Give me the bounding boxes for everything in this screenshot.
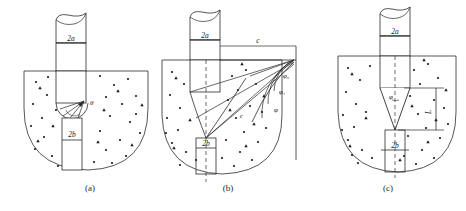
panel-c: 2a φ L 2b [338, 7, 456, 178]
caption-c: (c) [368, 183, 408, 193]
panel-a: 2a θ 2b [24, 13, 148, 170]
figure-svg: 2a θ 2b [0, 0, 466, 211]
caption-b: (b) [208, 183, 248, 193]
pile-shaft-c [380, 36, 410, 56]
pile-shaft-lower-a [56, 71, 86, 103]
label-phi0-b: φ₀ [283, 72, 290, 80]
label-L-c: L [424, 110, 433, 115]
pile-shaft-a [56, 43, 86, 71]
label-phi-c: φ [389, 93, 393, 101]
soil-mass-b [162, 60, 282, 174]
pile-tip-a [62, 118, 82, 170]
label-c-b: c [256, 36, 260, 45]
label-2a-c: 2a [391, 27, 399, 36]
label-2b-b: 2b [202, 139, 210, 148]
figure-container: 2a θ 2b [0, 0, 466, 211]
panel-b: 2a c φ₀ φ₁ φ c 2b [162, 10, 296, 182]
label-2a-b: 2a [201, 31, 209, 40]
label-2a-a: 2a [67, 34, 75, 43]
label-theta-a: θ [90, 99, 94, 107]
label-phi1-b: φ₁ [279, 88, 285, 96]
label-inner-phi-b: c [240, 112, 243, 119]
label-phi-b: φ [274, 106, 278, 114]
caption-a: (a) [70, 183, 110, 193]
pile-shaft-b [190, 40, 220, 60]
label-2b-a: 2b [68, 130, 76, 139]
label-2b-c: 2b [391, 141, 399, 150]
